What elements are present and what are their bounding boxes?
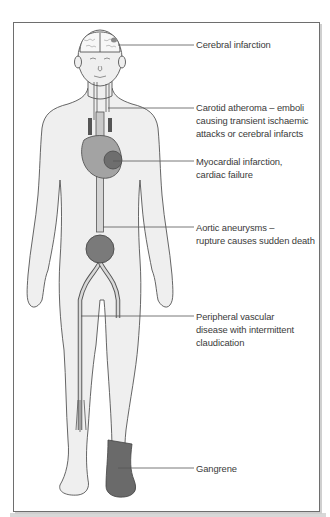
label-myocardial-infarction: Myocardial infarction, cardiac failure (196, 155, 282, 181)
myocardial-infarct-lesion (104, 151, 122, 169)
gangrene-foot-icon (106, 440, 136, 497)
brain-icon (80, 32, 120, 52)
label-cerebral-infarction: Cerebral infarction (196, 38, 271, 51)
label-gangrene: Gangrene (196, 462, 237, 475)
aortic-aneurysm-icon (86, 235, 114, 263)
label-carotid-atheroma: Carotid atheroma – emboli causing transi… (196, 101, 308, 140)
label-aortic-aneurysms: Aortic aneurysms – rupture causes sudden… (196, 221, 315, 247)
label-peripheral-vascular-disease: Peripheral vascular disease with intermi… (196, 310, 294, 349)
body-illustration (0, 0, 330, 517)
infarct-lesion (111, 38, 117, 43)
